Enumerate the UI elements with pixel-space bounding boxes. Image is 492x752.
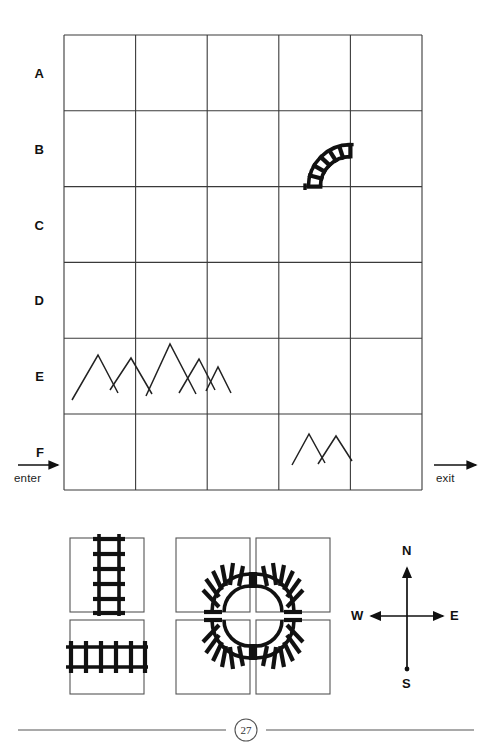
legend-tile-track-straight-vertical[interactable]	[70, 534, 144, 616]
row-label-f: F	[20, 445, 44, 460]
exit-label: exit	[436, 472, 455, 484]
legend-tile-track-straight-horizontal[interactable]	[66, 620, 148, 694]
compass-south-dot	[405, 667, 410, 672]
enter-label: enter	[14, 472, 41, 484]
legend-curve-group	[176, 538, 330, 694]
cell-b4-track-curve[interactable]	[305, 144, 354, 190]
page-footer: 27	[0, 705, 492, 752]
row-label-e: E	[20, 369, 44, 384]
puzzle-grid[interactable]	[0, 0, 492, 510]
compass-rose	[371, 568, 443, 671]
compass-label-west: W	[351, 608, 363, 623]
row-label-c: C	[20, 218, 44, 233]
row-label-a: A	[20, 66, 44, 81]
compass-label-north: N	[402, 543, 411, 558]
row-label-b: B	[20, 142, 44, 157]
compass-label-south: S	[402, 676, 411, 691]
page-number: 27	[241, 724, 253, 736]
legend-straight-group	[66, 534, 148, 694]
compass-label-east: E	[450, 608, 459, 623]
grid-lines	[64, 35, 422, 490]
cell-f4-mountains	[292, 434, 352, 465]
legend-area	[0, 528, 492, 728]
puzzle-board-area: A B C D E F enter exit	[0, 0, 492, 510]
row-label-d: D	[20, 293, 44, 308]
